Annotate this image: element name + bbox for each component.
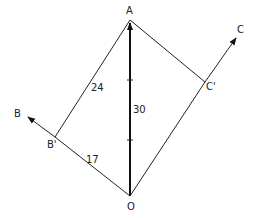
label-o: O	[127, 201, 135, 212]
label-a: A	[126, 5, 133, 16]
vector-ob-direction	[28, 117, 55, 137]
segment-a-c-prime	[130, 20, 205, 82]
segment-o-b-prime	[55, 137, 130, 196]
segment-b-prime-a	[55, 20, 130, 137]
label-c: C	[237, 24, 244, 35]
length-label-17: 17	[86, 154, 99, 165]
label-c-prime: C'	[206, 81, 216, 92]
vector-diagram: A O B B' C C' 24 30 17	[0, 0, 260, 218]
label-b: B	[14, 108, 21, 119]
length-label-24: 24	[91, 82, 104, 93]
segment-o-c-prime	[130, 82, 205, 196]
length-label-30: 30	[133, 104, 146, 115]
label-b-prime: B'	[47, 139, 57, 150]
vector-oc-direction	[205, 38, 236, 82]
